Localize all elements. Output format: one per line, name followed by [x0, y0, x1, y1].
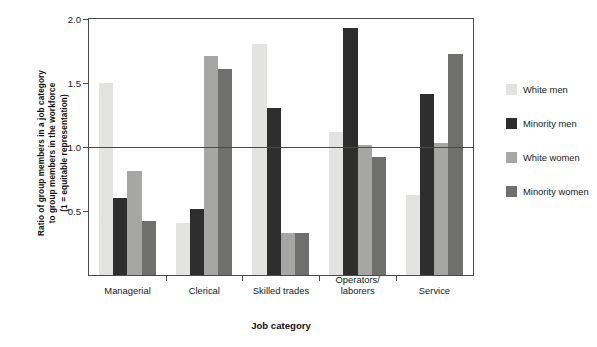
y-axis-tick-label: 1.0 [68, 141, 81, 152]
plot-inner: 0.51.01.52.0 [89, 19, 473, 275]
legend-item[interactable]: Minority men [506, 118, 577, 129]
legend-swatch-icon [506, 118, 517, 129]
x-axis-category-label: Clerical [189, 285, 220, 296]
bar-chart-figure: Ratio of group members in a job category… [0, 0, 597, 347]
bar [142, 221, 156, 275]
y-axis-title-text: Ratio of group members in a job category… [36, 70, 70, 236]
x-axis-category-label: Skilled trades [253, 285, 309, 296]
bar [295, 233, 309, 275]
bar [252, 44, 266, 275]
legend-swatch-icon [506, 152, 517, 163]
bar [448, 54, 462, 275]
x-axis-tick [242, 275, 243, 281]
bar [420, 94, 434, 275]
x-axis-category-label: Service [419, 285, 450, 296]
legend-item-label: Minority men [523, 118, 577, 129]
bar [113, 198, 127, 275]
x-axis-tick [166, 275, 167, 281]
plot-area: 0.51.01.52.0 [88, 18, 474, 276]
legend-item[interactable]: White women [506, 152, 580, 163]
bar [372, 157, 386, 275]
y-axis-tick-label: 2.0 [68, 14, 81, 25]
bar [343, 28, 357, 275]
legend-item[interactable]: White men [506, 84, 568, 95]
legend-item-label: White women [523, 152, 580, 163]
bar [434, 143, 448, 275]
bar [329, 132, 343, 275]
y-axis-tick [83, 211, 89, 212]
legend-item-label: White men [523, 84, 568, 95]
bar [204, 56, 218, 275]
x-axis-title: Job category [251, 320, 311, 331]
y-axis-title: Ratio of group members in a job category… [36, 23, 70, 283]
reference-line-equitable [89, 147, 473, 148]
legend-item[interactable]: Minority women [506, 186, 589, 197]
bar [99, 83, 113, 275]
bar [218, 69, 232, 275]
bar [358, 145, 372, 275]
legend-swatch-icon [506, 186, 517, 197]
bar [176, 223, 190, 275]
bar [127, 171, 141, 275]
x-axis-tick [396, 275, 397, 281]
bar [267, 108, 281, 275]
x-axis-tick [319, 275, 320, 281]
bar [281, 233, 295, 275]
bar [406, 195, 420, 276]
y-axis-tick-label: 1.5 [68, 77, 81, 88]
x-axis-category-label: Managerial [104, 285, 150, 296]
y-axis-tick [83, 83, 89, 84]
x-axis-category-label: Operators/ laborers [336, 274, 380, 296]
y-axis-tick [83, 19, 89, 20]
y-axis-tick-label: 0.5 [68, 205, 81, 216]
legend-swatch-icon [506, 84, 517, 95]
legend-item-label: Minority women [523, 186, 589, 197]
bar [190, 209, 204, 275]
